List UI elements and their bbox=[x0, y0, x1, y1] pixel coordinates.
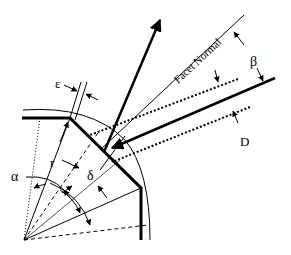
facet-polygon bbox=[22, 118, 141, 240]
angle-arc-outer bbox=[50, 183, 90, 225]
r-label: r bbox=[50, 155, 55, 170]
facet-normal-line bbox=[100, 15, 244, 150]
delta-arrow bbox=[98, 186, 107, 198]
radial-dashed-low bbox=[24, 225, 148, 240]
beta-arrow-top bbox=[234, 32, 244, 45]
beam-edge-lower bbox=[112, 107, 250, 162]
beta-label: β bbox=[250, 54, 257, 69]
epsilon-arrow-left bbox=[64, 85, 77, 91]
incident-ray bbox=[112, 78, 275, 148]
D-label: D bbox=[240, 134, 249, 149]
facet-normal-label: Facet Normal bbox=[171, 36, 223, 86]
r-arrow-upper bbox=[60, 122, 68, 142]
alpha-label: α bbox=[11, 169, 19, 184]
D-arrow-top bbox=[215, 70, 218, 82]
epsilon-label: ε bbox=[55, 76, 61, 91]
dotted-reference-line bbox=[24, 118, 40, 240]
facet-geometry-diagram: Facet Normal ε β D r δ α bbox=[0, 0, 291, 255]
epsilon-line-1 bbox=[70, 82, 81, 118]
delta-label: δ bbox=[87, 168, 94, 183]
epsilon-arrow-right bbox=[86, 94, 98, 100]
beta-arrow-bottom bbox=[257, 68, 263, 81]
